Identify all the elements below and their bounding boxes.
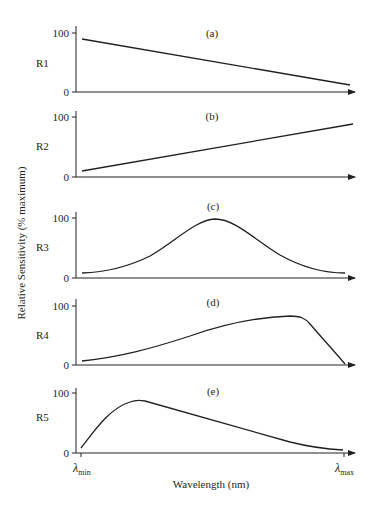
xtick-label-min: λmin xyxy=(72,461,91,477)
series-label: R1 xyxy=(36,57,49,69)
ytick-100: 100 xyxy=(53,111,70,123)
ytick-100: 100 xyxy=(53,212,70,224)
figure-canvas: Relative Sensitivity (% maximum) 100 0 R… xyxy=(0,0,375,514)
curve-r2 xyxy=(82,124,353,171)
curve-r5 xyxy=(81,400,343,450)
curve-r4 xyxy=(82,316,345,364)
panel-label: (e) xyxy=(207,385,220,398)
curve-r1 xyxy=(82,39,350,85)
panel-label: (c) xyxy=(207,200,220,213)
panel-label: (b) xyxy=(206,110,219,123)
xtick-label-max: λmax xyxy=(334,461,354,477)
panel-e: 100 0 R5 (e) λmin λmax Wavelength (nm) xyxy=(36,385,355,491)
series-label: R3 xyxy=(36,241,49,253)
panel-a: 100 0 R1 (a) xyxy=(36,26,355,98)
series-label: R2 xyxy=(36,140,49,152)
ytick-0: 0 xyxy=(64,171,70,183)
series-label: R4 xyxy=(36,329,49,341)
ytick-100: 100 xyxy=(53,387,70,399)
ytick-0: 0 xyxy=(64,359,70,371)
ytick-100: 100 xyxy=(53,27,70,39)
panel-d: 100 0 R4 (d) xyxy=(36,296,355,371)
panel-label: (a) xyxy=(206,27,219,40)
ytick-0: 0 xyxy=(64,272,70,284)
curve-r3 xyxy=(82,219,345,273)
ytick-0: 0 xyxy=(64,86,70,98)
series-label: R5 xyxy=(36,411,49,423)
ytick-0: 0 xyxy=(64,447,70,459)
x-axis-label: Wavelength (nm) xyxy=(173,478,250,491)
ytick-100: 100 xyxy=(53,300,70,312)
panel-label: (d) xyxy=(207,296,220,309)
y-axis-label: Relative Sensitivity (% maximum) xyxy=(15,166,28,319)
panel-c: 100 0 R3 (c) xyxy=(36,200,355,284)
panel-b: 100 0 R2 (b) xyxy=(36,110,355,183)
